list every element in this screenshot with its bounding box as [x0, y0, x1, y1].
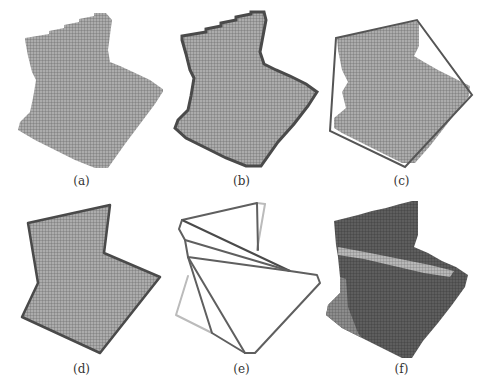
caption-a: (a) [0, 174, 163, 188]
voxel-shape-d [0, 195, 163, 389]
panel-c: (c) [320, 0, 483, 194]
panel-b: (b) [160, 0, 323, 194]
voxel-shape-c [320, 0, 490, 194]
panel-a: (a) [0, 0, 163, 194]
voxel-shape-b [160, 0, 323, 194]
panel-d: (d) [0, 195, 163, 389]
caption-d: (d) [0, 362, 163, 376]
decomposition-lines [160, 195, 325, 389]
voxel-shape-a [0, 0, 163, 194]
caption-c: (c) [320, 174, 483, 188]
panel-f: (f) [320, 195, 483, 389]
caption-b: (b) [160, 174, 323, 188]
voxel-shape-f [320, 195, 490, 389]
panel-e: (e) [160, 195, 323, 389]
caption-f: (f) [320, 362, 483, 376]
caption-e: (e) [160, 362, 323, 376]
